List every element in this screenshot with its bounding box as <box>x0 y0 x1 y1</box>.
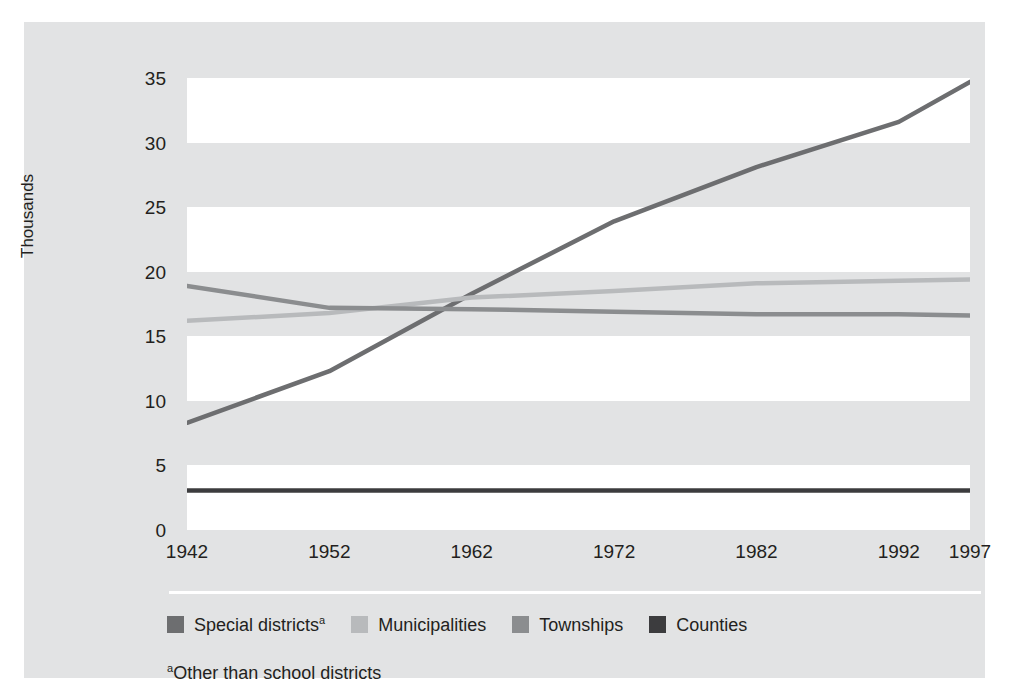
series-line <box>187 286 970 316</box>
legend-swatch-icon <box>351 616 368 633</box>
y-axis-tick-label: 0 <box>124 521 166 540</box>
legend-item[interactable]: Townships <box>512 616 623 634</box>
chart-legend: Special districtsaMunicipalitiesTownship… <box>167 615 773 634</box>
x-axis-tick-labels: 1942195219621972198219921997 <box>24 542 1014 576</box>
y-axis-tick-label: 15 <box>124 327 166 346</box>
series-lines <box>187 78 970 530</box>
y-axis-tick-label: 5 <box>124 456 166 475</box>
legend-swatch-icon <box>649 616 666 633</box>
legend-item-label: Counties <box>676 616 747 634</box>
y-axis-tick-label: 10 <box>124 392 166 411</box>
x-axis-tick-label: 1942 <box>147 542 227 561</box>
legend-swatch-icon <box>512 616 529 633</box>
x-axis-tick-label: 1962 <box>432 542 512 561</box>
legend-item[interactable]: Counties <box>649 616 747 634</box>
legend-item-label: Municipalities <box>378 616 486 634</box>
x-axis-tick-label: 1992 <box>859 542 939 561</box>
legend-item[interactable]: Special districtsa <box>167 615 325 634</box>
y-axis-title: Thousands <box>18 174 38 258</box>
x-axis-tick-label: 1972 <box>574 542 654 561</box>
legend-divider <box>169 591 981 594</box>
chart-root: Thousands 05101520253035 194219521962197… <box>0 0 1014 699</box>
chart-footnote: aOther than school districts <box>167 662 381 684</box>
legend-item[interactable]: Municipalities <box>351 616 486 634</box>
y-axis-tick-label: 20 <box>124 263 166 282</box>
footnote-text: Other than school districts <box>173 663 381 683</box>
chart-panel: Thousands 05101520253035 194219521962197… <box>24 22 985 678</box>
y-axis-tick-label: 25 <box>124 198 166 217</box>
y-axis-tick-label: 30 <box>124 134 166 153</box>
legend-item-label: Townships <box>539 616 623 634</box>
y-axis-tick-label: 35 <box>124 69 166 88</box>
x-axis-tick-label: 1997 <box>930 542 1010 561</box>
legend-swatch-icon <box>167 616 184 633</box>
series-line <box>187 82 970 423</box>
y-axis-tick-labels: 05101520253035 <box>120 22 166 699</box>
x-axis-tick-label: 1952 <box>289 542 369 561</box>
legend-item-label: Special districtsa <box>194 615 325 634</box>
plot-area <box>187 78 970 530</box>
x-axis-tick-label: 1982 <box>716 542 796 561</box>
legend-footnote-marker: a <box>319 614 325 626</box>
